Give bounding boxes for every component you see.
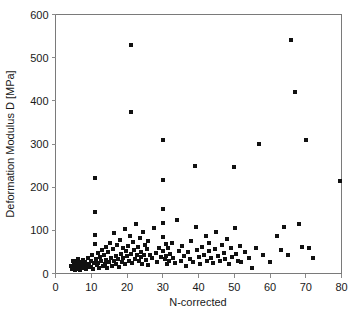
y-tick-label: 300 [30,138,48,150]
data-point [104,245,108,249]
data-point [145,247,149,251]
data-point [307,246,311,250]
data-point [105,266,109,270]
data-point [115,243,119,247]
data-point [179,259,183,263]
data-point [106,250,110,254]
data-point [93,242,97,246]
data-point [222,251,226,255]
data-point [218,259,222,263]
data-point [168,252,172,256]
data-point [236,259,240,263]
data-point [107,260,111,264]
data-point [238,244,242,248]
data-point [148,253,152,257]
plot-frame [56,15,342,274]
data-point [139,250,143,254]
data-point [159,255,163,259]
data-point [154,251,158,255]
data-point [146,239,150,243]
data-point [142,253,146,257]
data-point [232,165,236,169]
data-point [112,231,116,235]
data-point [93,233,97,237]
data-point [161,249,165,253]
data-point [150,256,154,260]
data-point [214,230,218,234]
data-point [247,256,251,260]
data-point [161,221,165,225]
data-point [114,254,118,258]
data-point [144,258,148,262]
data-point [200,245,204,249]
data-point [177,249,181,253]
x-tick-label: 50 [228,281,240,293]
data-point [97,266,101,270]
y-tick-label: 200 [30,181,48,193]
data-point [198,262,202,266]
data-point [155,260,159,264]
y-tick-label: 0 [42,268,48,280]
data-point [304,138,308,142]
data-point [225,237,229,241]
data-point [111,247,115,251]
data-point [194,225,198,229]
data-point [234,252,238,256]
data-point [99,259,103,263]
plot-canvas: 0100200300400500600 01020304050607080 De… [0,0,357,318]
data-point [220,243,224,247]
data-point [227,262,231,266]
data-point [161,235,165,239]
data-point [282,225,286,229]
data-point [297,222,301,226]
data-point [182,254,186,258]
data-point [268,260,272,264]
data-point [293,90,297,94]
data-point [130,261,134,265]
data-point [229,246,233,250]
x-tick-label: 20 [121,281,133,293]
data-point [126,244,130,248]
data-point [140,262,144,266]
data-point [129,110,133,114]
y-tick-label: 600 [30,9,48,21]
data-point [117,265,121,269]
data-point [197,255,201,259]
data-point [161,138,165,142]
data-point [230,255,234,259]
data-point [311,256,315,260]
data-point [211,261,215,265]
data-point [175,218,179,222]
data-point [216,254,220,258]
data-point [139,255,143,259]
data-point [103,262,107,266]
data-point [202,253,206,257]
data-point [186,250,190,254]
data-point [98,255,102,259]
x-axis-tick-labels: 01020304050607080 [52,281,347,293]
y-tick-label: 500 [30,52,48,64]
data-point [110,264,114,268]
y-tick-label: 100 [30,224,48,236]
data-point [257,142,261,146]
data-point [127,259,131,263]
data-point [114,262,118,266]
data-point [171,256,175,260]
data-point [189,239,193,243]
x-tick-label: 10 [85,281,97,293]
data-point [261,253,265,257]
data-point [76,257,80,261]
data-point [163,257,167,261]
data-point [184,264,188,268]
data-point [164,254,168,258]
x-tick-label: 30 [157,281,169,293]
data-point [195,248,199,252]
data-point [96,251,100,255]
data-point [123,262,127,266]
data-point [164,242,168,246]
data-point [119,252,123,256]
data-point [93,176,97,180]
data-point [137,259,141,263]
x-tick-label: 80 [335,281,347,293]
data-point [204,234,208,238]
